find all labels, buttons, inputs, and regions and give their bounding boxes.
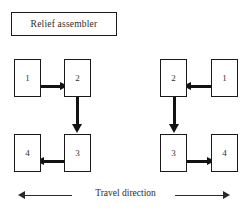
right-node-4-label: 4 bbox=[222, 148, 227, 158]
left-node-3: 3 bbox=[64, 134, 91, 172]
right-node-2: 2 bbox=[160, 59, 187, 97]
relief-assembler-title-box: Relief assembler bbox=[11, 12, 117, 36]
right-arrow-2-to-3-icon bbox=[171, 96, 177, 133]
left-node-1-label: 1 bbox=[25, 73, 30, 83]
left-node-2: 2 bbox=[64, 59, 91, 97]
left-node-3-label: 3 bbox=[75, 148, 80, 158]
travel-direction-label: Travel direction bbox=[78, 188, 173, 198]
travel-arrow-right-icon bbox=[175, 191, 230, 199]
right-node-4: 4 bbox=[211, 134, 238, 172]
left-node-4-label: 4 bbox=[25, 148, 30, 158]
left-node-1: 1 bbox=[14, 59, 41, 97]
right-node-1-label: 1 bbox=[222, 73, 227, 83]
left-node-4: 4 bbox=[14, 134, 41, 172]
right-node-2-label: 2 bbox=[171, 73, 176, 83]
travel-arrow-left-icon bbox=[18, 191, 72, 199]
relief-assembler-title-label: Relief assembler bbox=[31, 19, 98, 29]
right-node-3-label: 3 bbox=[171, 148, 176, 158]
left-node-2-label: 2 bbox=[75, 73, 80, 83]
right-node-1: 1 bbox=[211, 59, 238, 97]
right-node-3: 3 bbox=[160, 134, 187, 172]
left-arrow-2-to-3-icon bbox=[74, 96, 80, 133]
diagram-canvas: Relief assembler 1 2 3 4 2 1 3 4 bbox=[0, 0, 248, 210]
